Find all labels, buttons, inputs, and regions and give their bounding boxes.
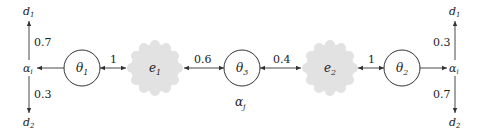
weight-theta3-e2: 0.4 (273, 53, 291, 66)
label-left-d1: d1 (23, 5, 35, 19)
weight-e2-theta2: 1 (368, 53, 375, 66)
prob-right-up: 0.3 (433, 36, 451, 49)
label-left-d2: d2 (23, 116, 35, 130)
label-right-d2: d2 (449, 116, 461, 130)
prob-right-down: 0.7 (433, 88, 451, 101)
prob-left-down: 0.3 (34, 88, 52, 101)
label-left-alpha: αi (23, 62, 33, 76)
label-alpha-j: αj (235, 95, 246, 111)
label-right-alpha: αi (449, 62, 459, 76)
label-right-d1: d1 (449, 5, 461, 19)
weight-theta1-e1: 1 (110, 53, 117, 66)
prob-left-up: 0.7 (34, 36, 52, 49)
weight-e1-theta3: 0.6 (194, 53, 212, 66)
diagram-canvas: θ1 θ3 θ2 e1 e2 1 0.6 0.4 1 αj αi d1 d2 0… (0, 0, 483, 136)
